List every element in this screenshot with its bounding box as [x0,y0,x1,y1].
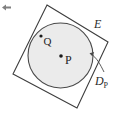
point-Q-dot [39,34,42,37]
point-P-dot [59,54,63,58]
left-arrow-icon [2,5,11,11]
left-arrow-icon-glyph [2,5,11,11]
set-E-label: E [93,17,102,31]
point-P-label: P [65,53,72,67]
figure-container: P Q E D P [0,0,119,116]
disk-D-label: D [94,74,104,88]
point-Q-label: Q [44,35,52,47]
disk-D-subscript-label: P [104,81,109,90]
diagram-canvas: P Q E D P [0,0,119,116]
